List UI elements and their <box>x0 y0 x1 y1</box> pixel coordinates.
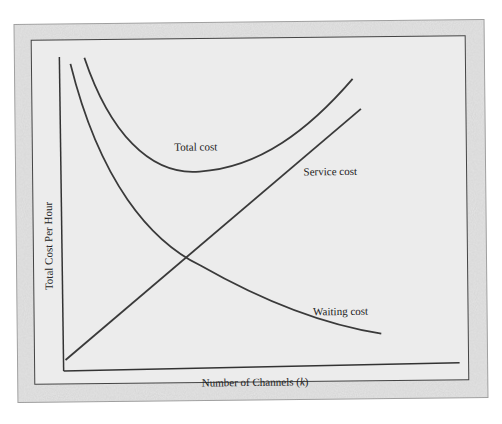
x-axis-title: Number of Channels (k) <box>202 375 309 389</box>
x-axis-title-prefix: Number of Channels ( <box>202 375 301 389</box>
x-axis-title-suffix: ) <box>305 375 309 388</box>
y-axis-title: Total Cost Per Hour <box>42 202 55 291</box>
service-cost-label: Service cost <box>304 165 358 178</box>
total-cost-label: Total cost <box>174 140 217 152</box>
waiting-cost-label: Waiting cost <box>313 305 368 318</box>
chart-figure: Total cost Service cost Waiting cost Tot… <box>0 0 502 424</box>
